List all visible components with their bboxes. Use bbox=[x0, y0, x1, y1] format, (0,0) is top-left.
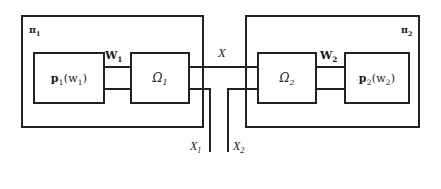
bus-label-w2: W2 bbox=[320, 50, 338, 61]
signal-label-x: X bbox=[218, 47, 226, 60]
signal-line-x2-horizontal bbox=[227, 88, 258, 90]
signal-label-x1: X1 bbox=[190, 140, 201, 152]
block-omega1: Ω1 bbox=[130, 52, 190, 104]
block-label-omega2: Ω2 bbox=[279, 71, 294, 85]
block-omega2: Ω2 bbox=[257, 52, 317, 104]
block-p1: p1(w1) bbox=[33, 52, 105, 104]
bus-w2-lower-line bbox=[316, 88, 345, 90]
bus-w2-upper-line bbox=[316, 66, 345, 68]
bus-label-w1: W1 bbox=[105, 50, 123, 61]
group-label-pi1: π1 bbox=[29, 25, 40, 35]
block-label-p1: p1(w1) bbox=[51, 72, 87, 85]
signal-line-x1-horizontal bbox=[189, 88, 211, 90]
block-label-p2: p2(w2) bbox=[359, 72, 395, 85]
group-label-pi2: π2 bbox=[401, 25, 412, 35]
signal-label-x2: X2 bbox=[233, 140, 244, 152]
block-label-omega1: Ω1 bbox=[152, 71, 167, 85]
block-p2: p2(w2) bbox=[344, 52, 410, 104]
signal-line-x1-vertical bbox=[209, 88, 211, 152]
bus-w1-upper-line bbox=[104, 66, 131, 68]
signal-line-x bbox=[189, 66, 258, 68]
diagram-canvas: π1 p1(w1) Ω1 W1 π2 Ω2 p2(w2) W2 bbox=[0, 0, 441, 189]
bus-w1-lower-line bbox=[104, 88, 131, 90]
signal-line-x2-vertical bbox=[227, 88, 229, 152]
